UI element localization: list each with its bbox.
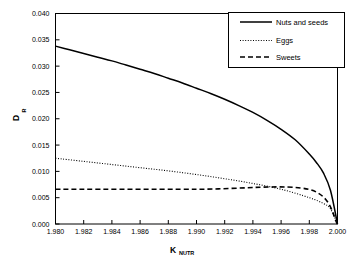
- x-tick-label: 1.990: [188, 228, 206, 235]
- x-axis-title-text: K: [170, 245, 177, 255]
- y-tick-label: 0.015: [32, 142, 50, 149]
- y-tick-label: 0.010: [32, 168, 50, 175]
- y-tick-label: 0.020: [32, 115, 50, 122]
- y-axis-tick-labels: 0.0000.0050.0100.0150.0200.0250.0300.035…: [32, 10, 50, 228]
- y-tick-label: 0.030: [32, 63, 50, 70]
- chart-figure: 0.0000.0050.0100.0150.0200.0250.0300.035…: [0, 0, 356, 262]
- x-tick-label: 1.992: [216, 228, 234, 235]
- x-tick-label: 1.998: [301, 228, 319, 235]
- x-tick-label: 2.000: [329, 228, 347, 235]
- x-tick-label: 1.986: [131, 228, 149, 235]
- y-tick-label: 0.025: [32, 89, 50, 96]
- line-chart: 0.0000.0050.0100.0150.0200.0250.0300.035…: [0, 0, 356, 262]
- y-axis-title-subscript: R: [21, 109, 27, 113]
- x-tick-label: 1.996: [272, 228, 290, 235]
- legend-label-eggs: Eggs: [276, 36, 293, 45]
- y-tick-label: 0.005: [32, 194, 50, 201]
- y-tick-label: 0.000: [32, 221, 50, 228]
- x-tick-label: 1.982: [75, 228, 93, 235]
- x-tick-label: 1.984: [103, 228, 121, 235]
- y-tick-label: 0.035: [32, 36, 50, 43]
- legend-label-sweets: Sweets: [276, 53, 301, 62]
- chart-legend: Nuts and seedsEggsSweets: [229, 13, 345, 68]
- x-axis-title-subscript: NUTR: [179, 250, 194, 256]
- y-axis-title-text: D: [11, 115, 21, 121]
- legend-label-nuts-and-seeds: Nuts and seeds: [276, 18, 328, 27]
- x-tick-label: 1.994: [244, 228, 262, 235]
- x-tick-label: 1.980: [47, 228, 65, 235]
- x-axis-tick-labels: 1.9801.9821.9841.9861.9881.9901.9921.994…: [47, 228, 347, 235]
- y-tick-label: 0.040: [32, 10, 50, 17]
- x-tick-label: 1.988: [160, 228, 178, 235]
